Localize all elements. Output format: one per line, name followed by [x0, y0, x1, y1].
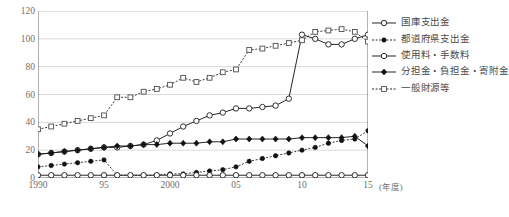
data-point	[102, 113, 107, 118]
data-point	[194, 173, 199, 178]
data-point	[194, 118, 199, 123]
data-point	[38, 165, 40, 169]
legend-item-label: 一般財源等	[401, 80, 450, 94]
data-point	[181, 173, 186, 178]
y-tick-label: 60	[26, 90, 36, 100]
data-point	[260, 156, 264, 160]
data-point	[260, 104, 265, 109]
data-point	[299, 32, 304, 37]
data-point	[313, 135, 318, 141]
data-point	[220, 173, 225, 178]
data-point	[273, 136, 278, 142]
y-tick-label: 120	[21, 6, 35, 16]
data-point	[352, 36, 357, 41]
data-point	[115, 95, 120, 100]
data-point	[154, 173, 159, 178]
x-tick-label: 05	[231, 180, 241, 190]
data-point	[352, 173, 357, 178]
data-point	[194, 80, 199, 85]
open-circle-icon	[371, 15, 397, 27]
data-point	[220, 139, 225, 145]
data-point	[273, 43, 278, 48]
data-point	[141, 89, 146, 94]
x-tick-label: 15	[363, 180, 373, 190]
data-point	[221, 167, 225, 171]
data-point	[352, 29, 357, 34]
data-point	[326, 173, 331, 178]
data-point	[207, 173, 212, 178]
data-point	[49, 163, 53, 167]
data-point	[366, 39, 368, 44]
legend-item-2[interactable]: 使用料・手数料	[371, 46, 499, 62]
data-point	[286, 136, 291, 142]
data-point	[233, 106, 238, 111]
data-point	[128, 95, 133, 100]
data-point	[181, 124, 186, 129]
data-point	[339, 42, 344, 47]
data-point	[247, 48, 252, 53]
data-point	[49, 124, 54, 129]
data-point	[167, 140, 172, 146]
data-point	[38, 127, 40, 132]
data-point	[207, 139, 212, 145]
open-square-icon	[371, 81, 397, 93]
legend-item-4[interactable]: 一般財源等	[371, 79, 499, 95]
data-point	[300, 148, 304, 152]
data-point	[101, 173, 106, 178]
data-point	[75, 173, 80, 178]
data-point	[260, 46, 265, 51]
data-point	[102, 158, 106, 162]
data-point	[299, 173, 304, 178]
data-point	[365, 173, 368, 178]
series-2	[38, 173, 368, 178]
data-point	[167, 131, 172, 136]
series-1	[38, 128, 368, 177]
filled-diamond-icon	[371, 64, 397, 76]
series-line	[38, 136, 368, 154]
data-point	[38, 173, 41, 178]
x-tick-label: 2000	[161, 180, 180, 190]
data-point	[247, 136, 252, 142]
legend-item-3[interactable]: 分担金・負担金・寄附金	[371, 62, 499, 78]
data-point	[89, 159, 93, 163]
data-point	[365, 32, 368, 37]
x-tick-label: 10	[297, 180, 307, 190]
data-point	[286, 173, 291, 178]
legend-item-label: 国庫支出金	[401, 14, 450, 28]
y-tick-label: 80	[26, 62, 36, 72]
legend-item-label: 分担金・負担金・寄附金	[401, 63, 509, 77]
data-point	[233, 173, 238, 178]
data-point	[313, 36, 318, 41]
data-point	[75, 119, 80, 124]
data-point	[207, 75, 212, 80]
data-point	[207, 113, 212, 118]
legend-item-0[interactable]: 国庫支出金	[371, 13, 499, 29]
legend-item-label: 都道府県支出金	[401, 31, 470, 45]
data-point	[62, 173, 67, 178]
data-point	[167, 173, 172, 178]
chart-plot-svg	[38, 11, 368, 178]
data-point	[326, 135, 331, 141]
data-point	[128, 173, 133, 178]
legend-item-1[interactable]: 都道府県支出金	[371, 29, 499, 45]
legend-item-label: 使用料・手数料	[401, 47, 470, 61]
data-point	[247, 159, 251, 163]
data-point	[260, 136, 265, 142]
x-axis-tick-labels: 1990952000051015(年度)	[38, 180, 378, 196]
data-point	[339, 27, 344, 32]
series-line	[38, 29, 368, 129]
y-axis-tick-labels: 020406080100120	[0, 11, 35, 178]
data-point	[194, 140, 199, 146]
data-point	[300, 38, 305, 43]
y-tick-label: 20	[26, 145, 36, 155]
data-point	[299, 135, 304, 141]
data-point	[88, 116, 93, 121]
data-point	[62, 121, 67, 126]
data-point	[75, 160, 79, 164]
data-point	[326, 141, 330, 145]
x-tick-label: 95	[99, 180, 109, 190]
data-point	[313, 145, 317, 149]
open-circle-icon	[371, 48, 397, 60]
x-tick-label: 1990	[29, 180, 48, 190]
